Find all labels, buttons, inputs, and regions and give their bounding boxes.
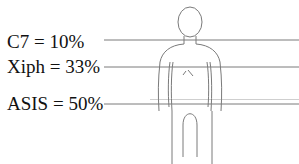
head-outline <box>178 7 202 37</box>
body-figure-diagram <box>0 0 299 164</box>
inner-legs <box>183 114 197 157</box>
